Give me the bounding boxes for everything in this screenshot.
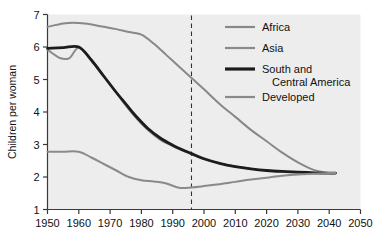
legend-label-1[interactable]: Asia [262,42,284,54]
y-tick-label-3: 3 [33,139,39,151]
legend-label-0[interactable]: Africa [262,21,291,33]
x-tick-label-1970: 1970 [98,217,122,229]
y-tick-label-7: 7 [33,9,39,21]
y-tick-label-6: 6 [33,41,39,53]
x-tick-label-2030: 2030 [286,217,310,229]
x-tick-label-2010: 2010 [223,217,247,229]
x-tick-label-2000: 2000 [192,217,216,229]
legend-label-2[interactable]: South and [262,63,312,75]
x-tick-label-2020: 2020 [254,217,278,229]
x-tick-label-1980: 1980 [129,217,153,229]
y-tick-label-5: 5 [33,74,39,86]
legend-label-3[interactable]: Developed [262,91,315,103]
x-tick-label-2040: 2040 [317,217,341,229]
legend-label-2-line2[interactable]: Central America [272,76,351,88]
y-tick-label-1: 1 [33,204,39,216]
y-tick-label-4: 4 [33,106,39,118]
x-tick-label-1990: 1990 [160,217,184,229]
chart-canvas: 1234567195019601970198019902000201020202… [0,0,383,241]
y-axis-title: Children per woman [6,65,18,159]
x-tick-label-1960: 1960 [67,217,91,229]
fertility-rate-line-chart: 1234567195019601970198019902000201020202… [0,0,383,241]
x-tick-label-2050: 2050 [348,217,372,229]
y-tick-label-2: 2 [33,171,39,183]
plot-background [48,15,361,210]
x-tick-label-1950: 1950 [35,217,59,229]
